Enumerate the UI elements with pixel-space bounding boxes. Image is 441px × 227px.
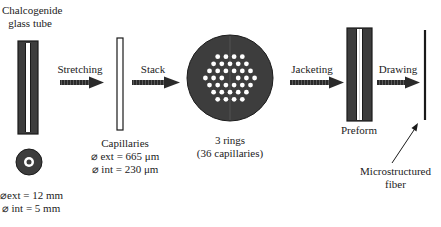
capillary-hole — [244, 76, 249, 81]
stretching-label: Stretching — [52, 63, 108, 76]
capillaries-dim-ext: ⌀ ext = 665 μm — [90, 150, 160, 163]
glass-tube-side — [18, 41, 38, 134]
capillary-hole — [252, 76, 257, 81]
capillaries-dim-int: ⌀ int = 230 μm — [90, 163, 160, 176]
preform-label: Preform — [334, 124, 384, 137]
fiber-label-line1: Microstructured — [350, 165, 441, 178]
jacketing-label: Jacketing — [287, 63, 337, 76]
capillary-hole — [215, 54, 220, 59]
capillary-hole — [240, 69, 245, 74]
stack-arrow-icon — [132, 77, 180, 89]
tube-label: Chalcogenide glass tube — [2, 4, 58, 30]
capillaries-title: Capillaries — [90, 137, 160, 150]
stretching-arrow-icon — [60, 77, 104, 89]
capillary-hole — [232, 97, 237, 102]
capillary-hole — [224, 97, 229, 102]
capillary — [117, 38, 123, 130]
tube-label-line2: glass tube — [2, 17, 58, 30]
tube-label-line1: Chalcogenide — [2, 4, 58, 17]
stack-label: Stack — [136, 63, 170, 76]
capillary-hole — [207, 69, 212, 74]
preform — [347, 28, 372, 121]
capillary-hole — [211, 90, 216, 95]
capillary-hole — [211, 61, 216, 66]
capillary-hole — [232, 83, 237, 88]
drawing-label: Drawing — [376, 63, 420, 76]
bundle-capillaries: (36 capillaries) — [190, 147, 270, 160]
capillary-hole — [248, 83, 253, 88]
jacketing-arrow-icon — [290, 77, 344, 89]
capillary-hole — [236, 61, 241, 66]
capillary-hole — [219, 90, 224, 95]
capillary-hole — [207, 83, 212, 88]
tube-dimensions: ⌀ext = 12 mm ⌀ int = 5 mm — [0, 189, 62, 215]
tube-dim-ext: ⌀ext = 12 mm — [0, 189, 62, 202]
capillary-hole — [224, 69, 229, 74]
capillary-hole — [215, 97, 220, 102]
capillary-stack-cross-section — [187, 35, 273, 121]
capillary-hole — [211, 76, 216, 81]
capillary-hole — [232, 69, 237, 74]
fiber-label: Microstructured fiber — [350, 165, 441, 191]
capillary-hole — [215, 83, 220, 88]
fiber-pointer-arrow-icon — [392, 123, 418, 163]
capillary-hole — [248, 69, 253, 74]
capillary-hole — [240, 97, 245, 102]
tube-dim-int: ⌀ int = 5 mm — [0, 202, 62, 215]
capillary-hole — [228, 90, 233, 95]
drawing-arrow-icon — [377, 77, 420, 89]
capillary-hole — [232, 54, 237, 59]
capillary-hole — [203, 76, 208, 81]
glass-tube-cross-section — [16, 149, 42, 175]
bundle-label: 3 rings (36 capillaries) — [190, 134, 270, 160]
capillary-hole — [244, 61, 249, 66]
capillary-hole — [215, 69, 220, 74]
process-diagram — [0, 0, 441, 227]
capillary-hole — [236, 90, 241, 95]
capillary-hole — [240, 83, 245, 88]
capillary-hole — [240, 54, 245, 59]
bundle-rings: 3 rings — [190, 134, 270, 147]
capillary-hole — [224, 83, 229, 88]
capillaries-label: Capillaries ⌀ ext = 665 μm ⌀ int = 230 μ… — [90, 137, 160, 176]
capillary-hole — [219, 76, 224, 81]
capillary-hole — [224, 54, 229, 59]
fiber-label-line2: fiber — [350, 178, 441, 191]
capillary-hole — [228, 61, 233, 66]
capillary-hole — [244, 90, 249, 95]
capillary-hole — [236, 76, 241, 81]
capillary-hole — [219, 61, 224, 66]
